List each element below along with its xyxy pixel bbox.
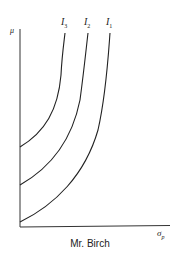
diagram-caption: Mr. Birch [0,238,180,249]
curve-label-1: I1 [105,16,112,29]
curve-label-2: I2 [83,16,90,29]
indifference-curve-2 [20,33,88,185]
x-axis [20,226,170,228]
y-axis-label: μ [9,26,14,35]
curve-label-3: I3 [60,16,67,29]
indifference-curve-diagram: μ σp I3 I2 I1 [0,0,180,256]
indifference-curve-1 [20,33,110,222]
indifference-curve-3 [20,33,65,147]
